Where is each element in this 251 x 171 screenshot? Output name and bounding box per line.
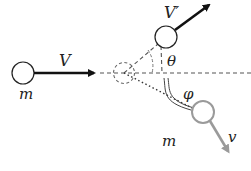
label-incoming-mass: m (19, 85, 33, 103)
target-ball (192, 101, 214, 123)
label-scattered-velocity: V′ (164, 3, 180, 22)
label-target-mass: m (162, 132, 176, 150)
projectile-vertical-dashed (161, 46, 162, 73)
scattered-velocity-arrow (175, 5, 209, 30)
scattered-projectile-ball (155, 26, 177, 48)
target-velocity-arrow (210, 121, 228, 151)
label-incoming-velocity: V (59, 51, 72, 70)
theta-arc (148, 50, 153, 73)
label-theta: θ (167, 52, 176, 70)
incoming-ball (12, 62, 34, 84)
label-target-velocity: v (228, 128, 237, 146)
label-phi: φ (183, 85, 194, 103)
projectile-path-dashed (124, 44, 158, 73)
collision-diagram: V m V′ θ φ m v (0, 0, 251, 171)
